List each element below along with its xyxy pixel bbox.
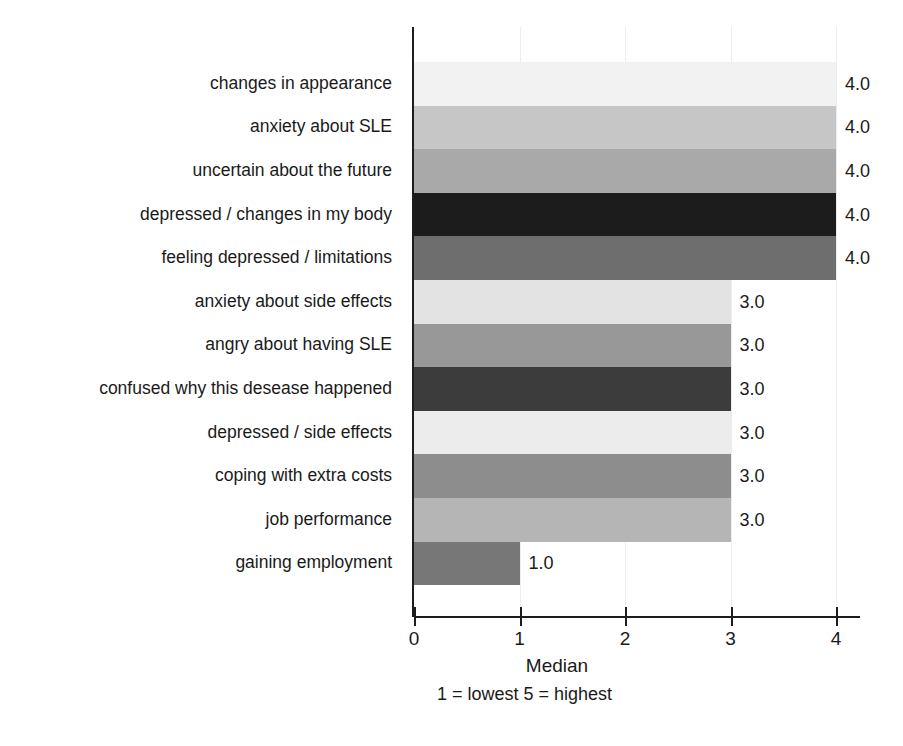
x-tick-upper-1 bbox=[520, 607, 522, 617]
x-tick-label-1: 1 bbox=[514, 628, 525, 650]
bar-row: 3.0 bbox=[414, 367, 836, 411]
bar-row: 4.0 bbox=[414, 62, 836, 106]
x-tick-label-0: 0 bbox=[409, 628, 420, 650]
x-tick-label-2: 2 bbox=[620, 628, 631, 650]
category-label: uncertain about the future bbox=[0, 160, 403, 181]
bar-value-label: 3.0 bbox=[731, 509, 765, 530]
bar-value-label: 4.0 bbox=[836, 73, 870, 94]
bar-value-label: 3.0 bbox=[731, 378, 765, 399]
bar bbox=[414, 236, 836, 280]
bar bbox=[414, 498, 731, 542]
bar-value-label: 3.0 bbox=[731, 466, 765, 487]
bar-row: 1.0 bbox=[414, 542, 836, 586]
x-axis-title: Median bbox=[0, 655, 903, 677]
bar-row: 3.0 bbox=[414, 280, 836, 324]
bar-row: 4.0 bbox=[414, 106, 836, 150]
bar-row: 3.0 bbox=[414, 411, 836, 455]
x-tick-upper-3 bbox=[731, 607, 733, 617]
bar bbox=[414, 411, 731, 455]
category-label: anxiety about SLE bbox=[0, 116, 403, 137]
plot-area: 4.04.04.04.04.03.03.03.03.03.03.01.0 bbox=[414, 62, 836, 585]
category-label: feeling depressed / limitations bbox=[0, 247, 403, 268]
median-bar-chart: 01234 changes in appearanceanxiety about… bbox=[0, 0, 903, 746]
bar-value-label: 4.0 bbox=[836, 160, 870, 181]
category-label: depressed / changes in my body bbox=[0, 204, 403, 225]
x-tick-3 bbox=[731, 617, 733, 626]
bar bbox=[414, 454, 731, 498]
category-label: angry about having SLE bbox=[0, 334, 403, 355]
bar-row: 3.0 bbox=[414, 324, 836, 368]
x-tick-upper-0 bbox=[414, 607, 416, 617]
x-axis-title-text: Median bbox=[526, 655, 588, 677]
bar bbox=[414, 280, 731, 324]
category-label: anxiety about side effects bbox=[0, 291, 403, 312]
category-label: changes in appearance bbox=[0, 73, 403, 94]
bar-value-label: 1.0 bbox=[520, 553, 554, 574]
bar-row: 4.0 bbox=[414, 193, 836, 237]
bar bbox=[414, 106, 836, 150]
x-tick-0 bbox=[414, 617, 416, 626]
bar bbox=[414, 62, 836, 106]
bar-row: 4.0 bbox=[414, 149, 836, 193]
x-tick-label-4: 4 bbox=[831, 628, 842, 650]
gridline-4 bbox=[836, 27, 837, 617]
x-tick-1 bbox=[520, 617, 522, 626]
bar bbox=[414, 149, 836, 193]
bar-value-label: 4.0 bbox=[836, 204, 870, 225]
bar-value-label: 3.0 bbox=[731, 422, 765, 443]
bar-value-label: 3.0 bbox=[731, 291, 765, 312]
x-tick-4 bbox=[836, 617, 838, 626]
bar bbox=[414, 324, 731, 368]
x-axis-line bbox=[414, 616, 860, 618]
scale-note: 1 = lowest 5 = highest bbox=[437, 684, 612, 705]
bar-value-label: 4.0 bbox=[836, 117, 870, 138]
x-tick-2 bbox=[625, 617, 627, 626]
bar-row: 3.0 bbox=[414, 498, 836, 542]
bar-value-label: 4.0 bbox=[836, 248, 870, 269]
bar-row: 3.0 bbox=[414, 454, 836, 498]
category-label: coping with extra costs bbox=[0, 465, 403, 486]
bar-value-label: 3.0 bbox=[731, 335, 765, 356]
category-label: depressed / side effects bbox=[0, 422, 403, 443]
x-tick-label-3: 3 bbox=[725, 628, 736, 650]
x-tick-upper-2 bbox=[625, 607, 627, 617]
x-tick-upper-4 bbox=[836, 607, 838, 617]
category-label: gaining employment bbox=[0, 552, 403, 573]
category-label: confused why this desease happened bbox=[0, 378, 403, 399]
category-label: job performance bbox=[0, 509, 403, 530]
bar-row: 4.0 bbox=[414, 236, 836, 280]
bar bbox=[414, 367, 731, 411]
bar bbox=[414, 193, 836, 237]
bar bbox=[414, 542, 520, 586]
